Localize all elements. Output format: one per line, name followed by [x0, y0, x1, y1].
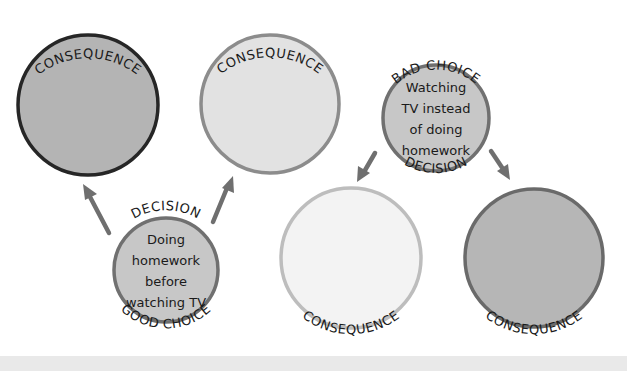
good-choice-text-line: watching TV — [126, 295, 206, 310]
arrow-good-to-top-middle — [213, 176, 234, 222]
good-choice-text-line: before — [145, 274, 187, 289]
page-bottom-edge — [0, 356, 627, 371]
bad-choice-text-line: TV instead — [401, 101, 471, 116]
arrow-good-to-top-left — [83, 184, 109, 233]
consequence-circle-top-left: CONSEQUENCE — [18, 35, 158, 175]
bad-choice-text-line: homework — [402, 143, 471, 158]
diagram-canvas: CONSEQUENCE CONSEQUENCE BAD CHOICE DECIS… — [0, 0, 627, 371]
bad-choice-text-line: of doing — [410, 122, 463, 137]
arrow-bad-to-bottom-middle — [357, 153, 375, 182]
bad-choice-decision-circle: BAD CHOICE DECISION Watching TV instead … — [383, 57, 489, 176]
consequence-circle-bottom-right: CONSEQUENCE — [465, 189, 603, 337]
bad-choice-text-line: Watching — [406, 80, 467, 95]
decision-diagram: CONSEQUENCE CONSEQUENCE BAD CHOICE DECIS… — [0, 0, 627, 371]
good-choice-text-line: Doing — [147, 232, 185, 247]
good-choice-text-line: homework — [132, 253, 201, 268]
consequence-circle-bottom-middle: CONSEQUENCE — [281, 188, 421, 337]
consequence-circle-top-middle: CONSEQUENCE — [201, 35, 339, 173]
good-choice-decision-circle: DECISION GOOD CHOICE Doing homework befo… — [114, 198, 218, 331]
arrow-bad-to-bottom-right — [491, 151, 510, 180]
